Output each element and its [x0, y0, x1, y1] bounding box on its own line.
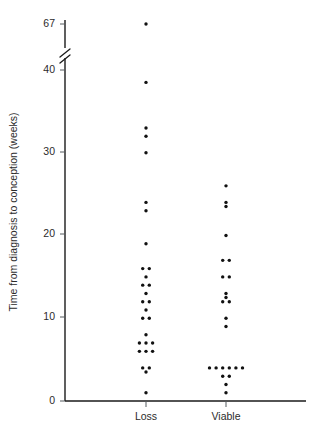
data-point	[224, 325, 227, 328]
data-point	[141, 283, 144, 286]
data-point	[144, 126, 147, 129]
data-point	[148, 283, 151, 286]
y-tick-label-67: 67	[43, 17, 55, 29]
data-point	[144, 350, 147, 353]
data-point	[228, 259, 231, 262]
data-point	[224, 234, 227, 237]
data-point	[141, 317, 144, 320]
data-point	[141, 366, 144, 369]
data-point	[151, 350, 154, 353]
y-tick-label-20: 20	[43, 227, 55, 239]
x-category-label-viable: Viable	[212, 410, 241, 422]
data-point	[224, 205, 227, 208]
data-point	[148, 267, 151, 270]
data-point	[144, 292, 147, 295]
y-tick-label-30: 30	[43, 145, 55, 157]
y-axis-title: Time from diagnosis to conception (weeks…	[7, 112, 19, 311]
data-point	[228, 300, 231, 303]
data-point	[224, 296, 227, 299]
y-tick-label-0: 0	[49, 394, 55, 406]
data-point	[148, 366, 151, 369]
data-point	[144, 391, 147, 394]
data-point	[221, 275, 224, 278]
data-point	[144, 370, 147, 373]
data-point	[144, 209, 147, 212]
data-point	[144, 135, 147, 138]
data-point	[241, 366, 244, 369]
data-point	[144, 151, 147, 154]
data-point	[228, 374, 231, 377]
data-point	[144, 201, 147, 204]
y-tick-label-10: 10	[43, 310, 55, 322]
data-point	[148, 317, 151, 320]
data-point	[144, 308, 147, 311]
data-point	[224, 317, 227, 320]
data-series-viable	[208, 184, 244, 394]
data-point	[224, 292, 227, 295]
dot-plot-svg: Time from diagnosis to conception (weeks…	[0, 0, 317, 442]
x-category-label-loss: Loss	[135, 410, 157, 422]
data-point	[228, 366, 231, 369]
data-point	[144, 22, 147, 25]
data-point	[151, 341, 154, 344]
data-point	[144, 242, 147, 245]
data-point	[224, 201, 227, 204]
data-point	[224, 391, 227, 394]
data-point	[148, 300, 151, 303]
data-point	[144, 341, 147, 344]
data-point	[228, 275, 231, 278]
data-point	[221, 366, 224, 369]
data-point	[141, 300, 144, 303]
dot-plot-figure: Time from diagnosis to conception (weeks…	[0, 0, 317, 442]
data-series-loss	[138, 22, 155, 394]
data-point	[221, 300, 224, 303]
data-point	[234, 366, 237, 369]
data-point	[224, 383, 227, 386]
data-point	[144, 333, 147, 336]
data-point	[221, 259, 224, 262]
data-point	[208, 366, 211, 369]
data-point	[224, 184, 227, 187]
data-point	[141, 267, 144, 270]
data-point	[214, 366, 217, 369]
data-point	[221, 374, 224, 377]
y-tick-label-40: 40	[43, 63, 55, 75]
data-point	[138, 341, 141, 344]
data-point	[144, 275, 147, 278]
data-point	[138, 350, 141, 353]
data-point	[144, 81, 147, 84]
